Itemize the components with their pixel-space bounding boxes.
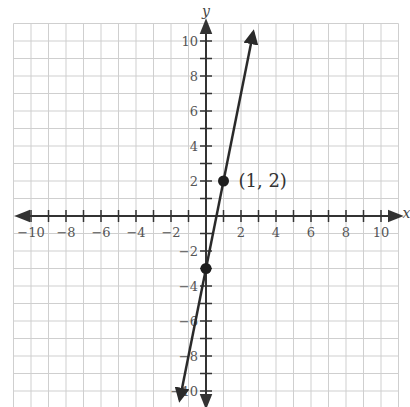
x-tick-label: −2 xyxy=(161,225,180,240)
y-axis-label: y xyxy=(201,3,211,19)
x-tick-label: 8 xyxy=(342,225,350,240)
x-tick-label: 6 xyxy=(307,225,315,240)
coordinate-plane-chart: −10−8−6−4−2246810−10−8−6−4−2246810 (1, 2… xyxy=(0,0,410,407)
x-tick-label: −6 xyxy=(91,225,110,240)
y-tick-label: 4 xyxy=(190,139,198,154)
data-points: (1, 2) xyxy=(201,170,287,274)
data-point xyxy=(201,263,212,274)
x-axis-label: x xyxy=(403,205,410,221)
y-tick-label: −4 xyxy=(179,279,198,294)
x-tick-label: −8 xyxy=(56,225,75,240)
y-tick-label: 2 xyxy=(190,174,198,189)
axes xyxy=(18,22,401,407)
x-tick-label: 2 xyxy=(237,225,245,240)
y-tick-label: 10 xyxy=(181,34,198,49)
y-tick-label: −2 xyxy=(179,244,198,259)
y-tick-label: −10 xyxy=(171,384,198,399)
x-tick-label: −10 xyxy=(17,225,44,240)
x-tick-label: −4 xyxy=(126,225,145,240)
x-tick-label: 4 xyxy=(272,225,280,240)
data-point xyxy=(218,176,229,187)
y-tick-label: 6 xyxy=(190,104,198,119)
x-tick-label: 10 xyxy=(373,225,390,240)
y-tick-label: 8 xyxy=(190,69,198,84)
point-label: (1, 2) xyxy=(239,170,287,191)
